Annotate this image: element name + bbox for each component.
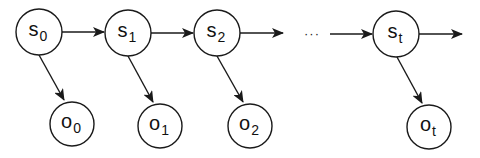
emission-s2-o2 xyxy=(217,56,243,102)
observation-label-o1: o1 xyxy=(149,113,169,137)
observation-label-o2: o2 xyxy=(239,113,259,137)
state-label-s1: s1 xyxy=(118,20,137,44)
observation-label-ot: ot xyxy=(420,114,436,138)
state-label-s2: s2 xyxy=(207,20,226,44)
observation-label-o0: o0 xyxy=(61,111,81,135)
emission-s1-o1 xyxy=(128,56,153,102)
ellipsis: ··· xyxy=(304,26,320,41)
emission-s0-o0 xyxy=(39,55,64,100)
state-label-st: st xyxy=(388,21,403,45)
emission-st-ot xyxy=(397,57,422,103)
state-label-s0: s0 xyxy=(29,19,48,43)
